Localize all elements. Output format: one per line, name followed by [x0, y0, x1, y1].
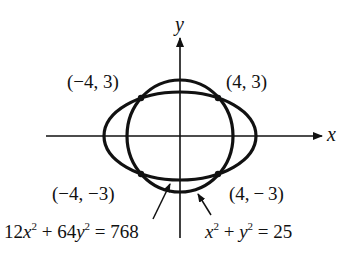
intersection-dot — [215, 95, 221, 101]
point-label-neg4-3: (−4, 3) — [67, 72, 119, 91]
circle-pointer-arrow — [198, 194, 211, 215]
eq-rhs: = 25 — [253, 221, 292, 242]
intersection-dot — [138, 171, 144, 177]
eq-rhs: = 768 — [90, 221, 139, 242]
point-label-4-3: (4, 3) — [226, 72, 267, 91]
eq-var-y: y — [76, 221, 84, 242]
eq-plus-term: + 64 — [37, 221, 76, 242]
circle-equation: x2 + y2 = 25 — [205, 222, 292, 241]
point-label-neg4-neg3: (−4, −3) — [52, 184, 115, 203]
eq-coef: 12 — [4, 221, 23, 242]
intersection-dot — [138, 95, 144, 101]
ellipse-equation: 12x2 + 64y2 = 768 — [4, 222, 139, 241]
point-label-4-neg3: (4, − 3) — [229, 184, 284, 203]
eq-plus: + — [219, 221, 239, 242]
intersection-dot — [215, 171, 221, 177]
x-axis-label: x — [327, 124, 336, 144]
eq-var-y: y — [239, 221, 247, 242]
y-axis-label: y — [175, 14, 184, 34]
diagram-canvas: y x (−4, 3) (4, 3) (−4, −3) (4, − 3) 12x… — [0, 0, 341, 259]
